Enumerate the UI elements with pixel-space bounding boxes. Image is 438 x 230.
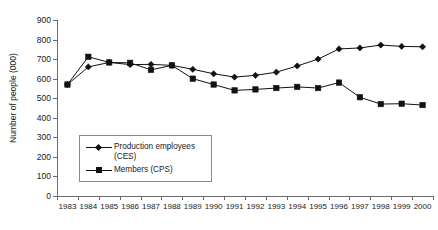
x-tick-label: 1994 <box>288 202 306 211</box>
data-point <box>357 45 363 51</box>
y-tick-label: 900 <box>37 15 51 25</box>
legend-marker-square-icon <box>86 165 112 176</box>
x-tick-label: 1990 <box>205 202 223 211</box>
data-point <box>190 76 195 81</box>
data-point <box>190 66 196 72</box>
y-tick-label: 500 <box>37 93 51 103</box>
data-point <box>127 60 132 65</box>
legend: Production employees (CES) Members (CPS) <box>79 135 212 182</box>
data-point <box>315 85 320 90</box>
x-tick-label: 1996 <box>330 202 348 211</box>
x-tick <box>224 196 225 200</box>
legend-label-1: Members (CPS) <box>114 165 173 175</box>
x-tick <box>391 196 392 200</box>
data-point <box>274 85 279 90</box>
data-point <box>86 54 91 59</box>
x-tick-label: 1992 <box>247 202 265 211</box>
x-tick <box>433 196 434 200</box>
line-chart: Number of people (000) 01002003004005006… <box>0 0 438 230</box>
y-tick-label: 600 <box>37 74 51 84</box>
series-line-0 <box>67 45 422 85</box>
x-tick <box>329 196 330 200</box>
data-point <box>231 74 237 80</box>
data-point <box>252 72 258 78</box>
x-tick-label: 1998 <box>372 202 390 211</box>
x-tick <box>308 196 309 200</box>
data-point <box>107 60 112 65</box>
x-tick-label: 1988 <box>163 202 181 211</box>
x-tick <box>266 196 267 200</box>
data-point <box>253 87 258 92</box>
x-tick <box>349 196 350 200</box>
y-tick-label: 100 <box>37 171 51 181</box>
x-tick-label: 1997 <box>351 202 369 211</box>
y-tick-label: 300 <box>37 132 51 142</box>
y-tick-label: 0 <box>46 191 51 201</box>
x-tick-label: 1999 <box>393 202 411 211</box>
data-point <box>169 63 174 68</box>
x-tick <box>161 196 162 200</box>
x-tick <box>141 196 142 200</box>
legend-marker-diamond-icon <box>86 142 112 153</box>
x-tick-label: 1995 <box>309 202 327 211</box>
data-point <box>420 102 425 107</box>
data-point <box>232 88 237 93</box>
data-point <box>399 101 404 106</box>
data-point <box>315 56 321 62</box>
data-point <box>378 101 383 106</box>
x-tick <box>245 196 246 200</box>
data-point <box>65 82 70 87</box>
data-point <box>357 95 362 100</box>
data-point <box>211 71 217 77</box>
data-point <box>419 44 425 50</box>
x-tick <box>78 196 79 200</box>
data-point <box>273 69 279 75</box>
x-tick <box>182 196 183 200</box>
data-point <box>399 43 405 49</box>
x-tick <box>120 196 121 200</box>
x-tick <box>287 196 288 200</box>
x-tick-label: 1983 <box>59 202 77 211</box>
data-point <box>336 46 342 52</box>
legend-label-0: Production employees (CES) <box>114 142 211 162</box>
y-tick-label: 700 <box>37 54 51 64</box>
x-tick-label: 1989 <box>184 202 202 211</box>
data-point <box>294 63 300 69</box>
x-tick <box>412 196 413 200</box>
data-point <box>148 67 153 72</box>
legend-item-0: Production employees (CES) <box>86 142 211 162</box>
x-tick-label: 1993 <box>267 202 285 211</box>
y-axis-title: Number of people (000) <box>4 0 22 196</box>
x-tick-label: 1985 <box>100 202 118 211</box>
data-point <box>336 80 341 85</box>
data-point <box>295 84 300 89</box>
data-point <box>148 61 154 67</box>
x-tick-label: 1986 <box>121 202 139 211</box>
y-tick-label: 200 <box>37 152 51 162</box>
x-tick <box>57 196 58 200</box>
data-point <box>378 42 384 48</box>
legend-item-1: Members (CPS) <box>86 165 173 176</box>
data-point <box>211 82 216 87</box>
x-tick-label: 1984 <box>79 202 97 211</box>
y-tick-label: 400 <box>37 113 51 123</box>
x-tick <box>370 196 371 200</box>
y-tick-label: 800 <box>37 35 51 45</box>
x-tick-label: 2000 <box>414 202 432 211</box>
x-tick <box>99 196 100 200</box>
x-tick-label: 1987 <box>142 202 160 211</box>
x-tick-label: 1991 <box>226 202 244 211</box>
x-tick <box>203 196 204 200</box>
